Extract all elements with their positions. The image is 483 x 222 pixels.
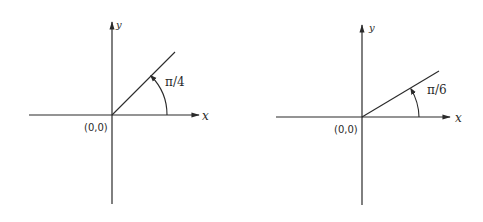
angle-label: π/4	[165, 75, 185, 89]
angle-diagram-pi-over-4: x y (0,0) π/4	[29, 19, 209, 204]
x-axis-label: x	[455, 111, 462, 125]
angle-label: π/6	[427, 83, 447, 97]
y-axis-label: y	[368, 22, 375, 33]
x-axis-label: x	[202, 109, 209, 123]
y-axis-label: y	[115, 19, 122, 30]
angle-diagram-pi-over-6: x y (0,0) π/6	[276, 22, 462, 205]
angle-arc	[411, 89, 419, 117]
diagram-canvas: x y (0,0) π/4 x y (0,0) π/6	[0, 0, 483, 222]
origin-label: (0,0)	[334, 124, 358, 135]
origin-label: (0,0)	[84, 122, 108, 133]
